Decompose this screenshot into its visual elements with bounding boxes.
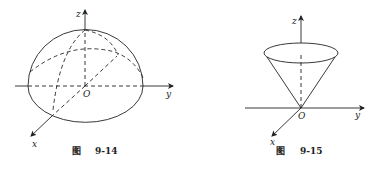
y-axis-label-9-14: y [165, 89, 172, 99]
caption-prefix-9-14: 图 [72, 146, 81, 156]
caption-number-9-15: 9-15 [300, 146, 323, 156]
origin-label-9-14: O [83, 89, 91, 99]
cone-side-right [301, 57, 335, 108]
x-axis [31, 116, 52, 136]
z-axis-label-9-14: z [75, 9, 81, 19]
cone-side-left [267, 57, 301, 108]
x-axis-label-9-14: x [32, 139, 37, 149]
origin-label-9-15: O [298, 111, 306, 121]
x-axis-label-9-15: x [270, 137, 275, 147]
y-axis-label-9-15: y [354, 110, 361, 120]
cone-rim [264, 43, 338, 63]
diagram-canvas: z y x O 图 9-14 z y x O 图 9-15 [0, 0, 376, 169]
latitude-arc-dashed [30, 49, 143, 78]
x-axis [272, 108, 301, 136]
caption-number-9-14: 9-14 [95, 146, 118, 156]
meridian-front-dashed [53, 30, 85, 110]
radius-dashed [85, 56, 117, 86]
x-axis-inner-dashed [52, 86, 85, 116]
meridian-back-dashed [85, 30, 118, 55]
figure-9-14 [15, 10, 173, 136]
caption-prefix-9-15: 图 [276, 146, 285, 156]
dome-outline [28, 30, 143, 86]
z-axis-label-9-15: z [291, 16, 297, 26]
